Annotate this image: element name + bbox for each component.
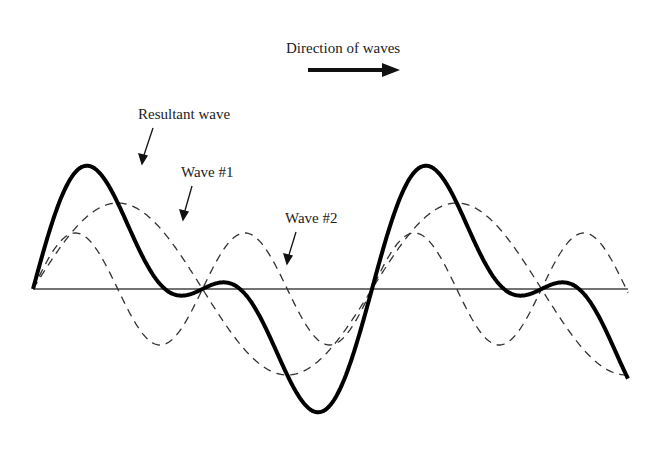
wave-diagram <box>0 0 663 472</box>
direction-arrow-icon <box>308 63 400 77</box>
label-pointer-arrows <box>139 128 296 264</box>
